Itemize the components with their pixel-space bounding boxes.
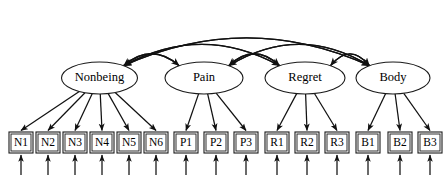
indicator-n3: N3 <box>63 132 87 153</box>
indicator-label-n6: N6 <box>149 136 163 148</box>
indicator-label-n4: N4 <box>95 136 109 148</box>
cov-nonbeing-pain-arrow-reverse <box>124 54 179 66</box>
cov-pain-regret-arrow-reverse <box>229 54 280 66</box>
indicator-n6: N6 <box>144 132 168 153</box>
loading-arrow-pain-to-p1 <box>186 94 199 131</box>
latent-factor-nonbeing: Nonbeing <box>62 62 138 94</box>
indicator-label-r2: R2 <box>300 136 314 148</box>
loading-arrow-pain-to-p2 <box>208 94 216 131</box>
latent-factor-pain: Pain <box>165 62 243 94</box>
factor-label-pain: Pain <box>193 70 216 84</box>
indicator-label-n2: N2 <box>41 136 55 148</box>
latent-factor-body: Body <box>356 62 430 94</box>
loading-arrow-body-to-b3 <box>404 93 430 130</box>
loading-arrow-body-to-b1 <box>368 94 386 131</box>
indicator-label-n5: N5 <box>122 136 136 148</box>
indicator-b1: B1 <box>356 132 380 153</box>
loading-arrow-regret-to-r1 <box>277 94 297 131</box>
indicator-label-r3: R3 <box>330 136 344 148</box>
loading-arrow-regret-to-r3 <box>314 94 337 131</box>
indicator-r3: R3 <box>325 132 349 153</box>
loading-arrow-body-to-b2 <box>395 94 400 131</box>
indicator-label-b3: B3 <box>423 136 437 148</box>
covariance-arcs-group <box>124 38 370 66</box>
indicator-p1: P1 <box>174 132 198 153</box>
loading-arrow-nonbeing-to-n4 <box>100 94 102 131</box>
indicator-n2: N2 <box>36 132 60 153</box>
factor-label-regret: Regret <box>288 70 322 84</box>
loading-arrow-pain-to-p3 <box>216 93 246 130</box>
loading-arrow-nonbeing-to-n5 <box>108 94 129 131</box>
loading-arrow-nonbeing-to-n1 <box>21 92 79 131</box>
indicator-n4: N4 <box>90 132 114 153</box>
loading-arrow-nonbeing-to-n6 <box>115 93 156 131</box>
indicator-label-b2: B2 <box>393 136 407 148</box>
factor-loading-arrows-group <box>21 92 430 131</box>
indicator-b2: B2 <box>388 132 412 153</box>
loading-arrow-nonbeing-to-n2 <box>48 93 85 131</box>
factor-label-body: Body <box>379 70 407 84</box>
indicator-label-b1: B1 <box>361 136 375 148</box>
residual-arrows-group <box>21 155 430 175</box>
indicator-r2: R2 <box>295 132 319 153</box>
diagram-canvas: N1N2N3N4N5N6P1P2P3R1R2R3B1B2B3 NonbeingP… <box>0 0 447 182</box>
indicator-b3: B3 <box>418 132 442 153</box>
factor-label-nonbeing: Nonbeing <box>75 70 125 84</box>
indicator-label-p1: P1 <box>180 136 192 148</box>
indicator-label-p2: P2 <box>210 136 222 148</box>
indicator-label-n3: N3 <box>68 136 82 148</box>
sem-path-diagram: N1N2N3N4N5N6P1P2P3R1R2R3B1B2B3 NonbeingP… <box>0 0 447 182</box>
indicator-label-r1: R1 <box>270 136 284 148</box>
indicator-label-n1: N1 <box>14 136 28 148</box>
latent-factor-ellipses-group: NonbeingPainRegretBody <box>62 62 431 94</box>
loading-arrow-regret-to-r2 <box>306 94 307 131</box>
indicator-boxes-group: N1N2N3N4N5N6P1P2P3R1R2R3B1B2B3 <box>9 132 442 153</box>
indicator-n1: N1 <box>9 132 33 153</box>
indicator-p3: P3 <box>234 132 258 153</box>
indicator-p2: P2 <box>204 132 228 153</box>
latent-factor-regret: Regret <box>265 62 345 94</box>
indicator-n5: N5 <box>117 132 141 153</box>
loading-arrow-nonbeing-to-n3 <box>75 94 92 131</box>
indicator-r1: R1 <box>265 132 289 153</box>
indicator-label-p3: P3 <box>240 136 252 148</box>
